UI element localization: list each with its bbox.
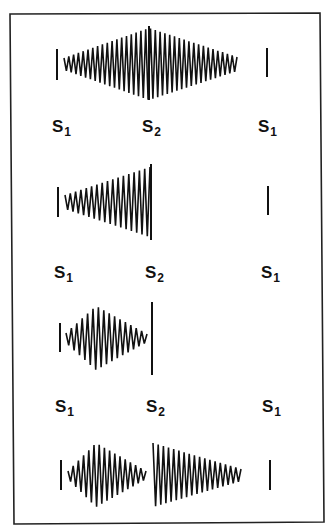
diamond-waveform — [64, 29, 237, 100]
label-subscript: 1 — [273, 271, 280, 285]
murmur-diagram: S1S2S1S1S2S1S1S2S1 — [0, 0, 329, 530]
label-subscript: 2 — [158, 405, 165, 419]
crescendo-waveform — [65, 167, 150, 236]
label-main: S — [145, 263, 156, 282]
panel-crescendo-murmur — [58, 164, 268, 240]
label-main: S — [146, 397, 157, 416]
s1-label-right: S1 — [261, 264, 280, 281]
s1-label-right: S1 — [258, 118, 277, 135]
label-main: S — [142, 117, 153, 136]
label-main: S — [262, 397, 273, 416]
label-subscript: 1 — [64, 125, 71, 139]
label-subscript: 1 — [274, 405, 281, 419]
diamond-waveform — [68, 445, 146, 507]
decrescendo-waveform — [153, 443, 241, 506]
label-subscript: 1 — [67, 405, 74, 419]
label-subscript: 2 — [157, 271, 164, 285]
label-main: S — [55, 397, 66, 416]
label-subscript: 2 — [154, 125, 161, 139]
label-subscript: 1 — [66, 271, 73, 285]
diamond-waveform — [66, 307, 147, 369]
s1-label: S1 — [55, 398, 74, 415]
panel-mid-systolic-ejection-murmur — [60, 302, 152, 375]
label-subscript: 1 — [270, 125, 277, 139]
panel-systolic-and-diastolic-murmur — [61, 443, 270, 507]
label-main: S — [258, 117, 269, 136]
s1-label: S1 — [52, 118, 71, 135]
s1-label: S1 — [54, 264, 73, 281]
s2-label: S2 — [142, 118, 161, 135]
s2-label: S2 — [145, 264, 164, 281]
label-main: S — [54, 263, 65, 282]
panel-holosystolic-diamond-murmur — [57, 26, 267, 100]
label-main: S — [261, 263, 272, 282]
s2-label: S2 — [146, 398, 165, 415]
label-main: S — [52, 117, 63, 136]
s1-label-right: S1 — [262, 398, 281, 415]
